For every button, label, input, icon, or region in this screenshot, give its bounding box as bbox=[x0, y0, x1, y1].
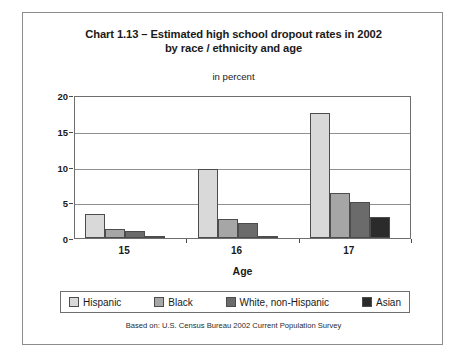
bar-asian-15 bbox=[145, 236, 165, 238]
legend-item-asian[interactable]: Asian bbox=[362, 297, 401, 308]
x-axis-tick-mark bbox=[411, 239, 412, 243]
x-axis-title: Age bbox=[74, 265, 411, 277]
source-note: Based on: U.S. Census Bureau 2002 Curren… bbox=[23, 321, 444, 330]
y-axis-tick-label: 15 bbox=[57, 126, 68, 137]
bar-group-15 bbox=[85, 97, 165, 238]
legend-swatch-white-non-hispanic bbox=[226, 297, 236, 307]
bar-asian-17 bbox=[370, 217, 390, 238]
bar-black-17 bbox=[330, 193, 350, 238]
y-axis-tick-mark bbox=[69, 168, 73, 169]
legend-item-black[interactable]: Black bbox=[154, 297, 192, 308]
legend-swatch-asian bbox=[362, 297, 372, 307]
chart-subtitle: in percent bbox=[23, 71, 444, 83]
bar-group-17 bbox=[310, 97, 390, 238]
legend-label-black: Black bbox=[168, 297, 192, 308]
legend-label-hispanic: Hispanic bbox=[83, 297, 121, 308]
bar-group-16 bbox=[198, 97, 278, 238]
legend-label-asian: Asian bbox=[376, 297, 401, 308]
plot-area-wrapper: 05101520 151617 bbox=[74, 96, 411, 239]
chart-title-line-2: by race / ethnicity and age bbox=[23, 41, 444, 55]
bar-hispanic-15 bbox=[85, 214, 105, 238]
legend-item-hispanic[interactable]: Hispanic bbox=[69, 297, 121, 308]
x-axis-tick-label: 16 bbox=[231, 245, 242, 256]
y-axis-tick-label: 20 bbox=[57, 91, 68, 102]
chart-figure: Chart 1.13 – Estimated high school dropo… bbox=[22, 12, 443, 345]
bar-white-non-hispanic-16 bbox=[238, 223, 258, 238]
bar-white-non-hispanic-15 bbox=[125, 231, 145, 238]
legend-swatch-black bbox=[154, 297, 164, 307]
x-axis-tick-label: 17 bbox=[343, 245, 354, 256]
bar-black-16 bbox=[218, 219, 238, 238]
chart-title: Chart 1.13 – Estimated high school dropo… bbox=[23, 27, 444, 55]
x-axis-tick-mark bbox=[186, 239, 187, 243]
bar-white-non-hispanic-17 bbox=[350, 202, 370, 238]
plot-area bbox=[74, 96, 411, 239]
bar-asian-16 bbox=[258, 236, 278, 238]
chart-legend: HispanicBlackWhite, non-HispanicAsian bbox=[60, 291, 410, 313]
y-axis-tick-mark bbox=[69, 239, 73, 240]
legend-item-white-non-hispanic[interactable]: White, non-Hispanic bbox=[226, 297, 329, 308]
x-axis-tick-mark bbox=[299, 239, 300, 243]
bar-hispanic-17 bbox=[310, 113, 330, 238]
legend-swatch-hispanic bbox=[69, 297, 79, 307]
bar-hispanic-16 bbox=[198, 169, 218, 238]
x-axis-tick-label: 15 bbox=[119, 245, 130, 256]
y-axis-tick-label: 5 bbox=[63, 198, 68, 209]
y-axis-tick-mark bbox=[69, 203, 73, 204]
chart-title-line-1: Chart 1.13 – Estimated high school dropo… bbox=[23, 27, 444, 41]
y-axis-tick-mark bbox=[69, 132, 73, 133]
y-axis-tick-mark bbox=[69, 96, 73, 97]
bar-black-15 bbox=[105, 229, 125, 238]
legend-label-white-non-hispanic: White, non-Hispanic bbox=[240, 297, 329, 308]
y-axis-tick-label: 10 bbox=[57, 162, 68, 173]
y-axis-tick-label: 0 bbox=[63, 234, 68, 245]
